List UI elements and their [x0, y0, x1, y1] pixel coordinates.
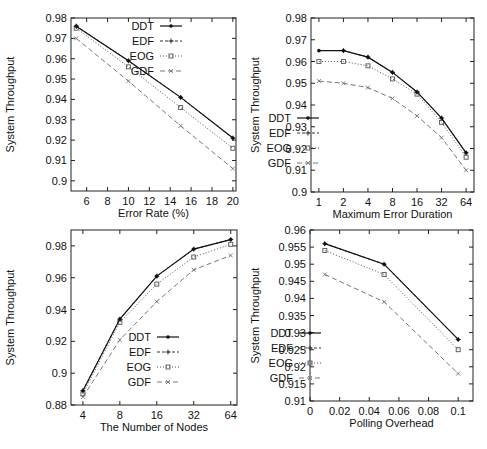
y-tick-label: 0.955: [278, 241, 306, 253]
legend: DDTEDFEOGGDF: [130, 20, 182, 77]
series-line: [76, 26, 233, 138]
legend-label: DDT: [128, 331, 151, 343]
marker-dot: [382, 262, 386, 266]
x-tick-label: 0.02: [329, 405, 350, 417]
y-tick-label: 0.94: [286, 99, 307, 111]
chart-max-error-duration: 0.90.910.920.930.940.950.960.970.9812481…: [245, 0, 487, 225]
y-tick-label: 0.96: [46, 53, 67, 65]
series-line: [83, 240, 231, 391]
series-edf: [322, 241, 460, 342]
marker-dot: [179, 96, 183, 100]
series-line: [325, 244, 458, 340]
series-line: [76, 28, 233, 148]
legend: DDTEDFEOGGDF: [127, 331, 179, 388]
y-tick-label: 0.96: [286, 56, 307, 68]
series-edf: [341, 48, 469, 155]
legend-label: EOG: [130, 50, 154, 62]
series-ddt: [81, 238, 232, 393]
series-line: [83, 240, 231, 391]
series-edf: [80, 237, 233, 393]
y-tick-label: 0.95: [286, 77, 307, 89]
y-tick-label: 0.9: [52, 175, 67, 187]
x-tick-label: 0.04: [359, 405, 380, 417]
series-eog: [323, 249, 460, 352]
y-tick-label: 0.98: [46, 12, 67, 24]
x-axis-label: Error Rate (%): [118, 207, 189, 219]
chart-polling-overhead: 0.910.9150.920.9250.930.9350.940.9450.95…: [245, 225, 487, 449]
marker-dot: [306, 116, 310, 120]
x-tick-label: 20: [227, 195, 239, 207]
y-tick-label: 0.98: [46, 240, 67, 252]
x-tick-label: 8: [389, 196, 395, 208]
x-tick-label: 16: [411, 196, 423, 208]
series-gdf: [323, 272, 460, 375]
legend-label: GDF: [131, 65, 155, 77]
x-tick-label: 12: [143, 195, 155, 207]
x-axis-label: The Number of Nodes: [100, 421, 209, 433]
y-tick-label: 0.96: [285, 225, 306, 236]
y-tick-label: 0.92: [46, 335, 67, 347]
y-tick-label: 0.95: [285, 258, 306, 270]
series-line: [325, 251, 458, 350]
legend-label: EDF: [269, 127, 291, 139]
marker-square: [456, 348, 460, 352]
legend-label: DDT: [270, 327, 293, 339]
series-gdf: [317, 79, 468, 172]
series-line: [319, 62, 466, 158]
chart-error-rate: 0.90.910.920.930.940.950.960.970.9868101…: [0, 0, 245, 225]
series-ddt: [323, 242, 460, 341]
series-line: [325, 244, 458, 340]
marker-dot: [456, 338, 460, 342]
x-tick-label: 0.1: [451, 405, 466, 417]
x-tick-label: 64: [460, 196, 472, 208]
x-tick-label: 8: [104, 195, 110, 207]
series-eog: [74, 26, 235, 150]
series-line: [83, 244, 231, 394]
marker-dot: [440, 116, 444, 120]
y-tick-label: 0.9: [52, 367, 67, 379]
y-tick-label: 0.9: [292, 186, 307, 198]
marker-dot: [308, 331, 312, 335]
legend-label: GDF: [270, 372, 294, 384]
y-axis-label: System Throughput: [249, 57, 261, 153]
legend-label: EOG: [267, 142, 291, 154]
x-tick-label: 64: [225, 409, 237, 421]
plot-frame: [71, 230, 237, 405]
y-tick-label: 0.97: [46, 32, 67, 44]
marker-dot: [342, 49, 346, 53]
y-tick-label: 0.935: [278, 310, 306, 322]
marker-square: [229, 242, 233, 246]
x-tick-label: 6: [84, 195, 90, 207]
y-axis-label: System Throughput: [249, 268, 261, 364]
marker-dot: [317, 49, 321, 53]
legend-label: EOG: [269, 357, 293, 369]
x-tick-label: 4: [80, 409, 86, 421]
marker-square: [391, 77, 395, 81]
marker-dot: [169, 24, 173, 28]
y-tick-label: 0.94: [285, 292, 306, 304]
marker-dot: [231, 136, 235, 140]
marker-dot: [118, 317, 122, 321]
legend-label: EDF: [271, 342, 293, 354]
marker-dot: [155, 274, 159, 278]
legend-label: EDF: [129, 346, 151, 358]
plot-frame: [311, 18, 474, 192]
series-gdf: [74, 36, 235, 170]
y-tick-label: 0.88: [46, 399, 67, 411]
x-tick-label: 1: [316, 196, 322, 208]
series-line: [325, 274, 458, 373]
marker-dot: [366, 55, 370, 59]
x-tick-label: 0: [307, 405, 313, 417]
legend-label: GDF: [268, 157, 292, 169]
marker-dot: [391, 71, 395, 75]
y-tick-label: 0.93: [46, 114, 67, 126]
marker-dot: [192, 247, 196, 251]
x-axis-label: Maximum Error Duration: [333, 208, 453, 220]
y-tick-label: 0.91: [285, 395, 306, 407]
series-line: [319, 51, 466, 153]
series-ddt: [74, 24, 234, 140]
x-tick-label: 4: [365, 196, 371, 208]
y-tick-label: 0.92: [46, 134, 67, 146]
series-line: [76, 38, 233, 168]
x-tick-label: 2: [340, 196, 346, 208]
